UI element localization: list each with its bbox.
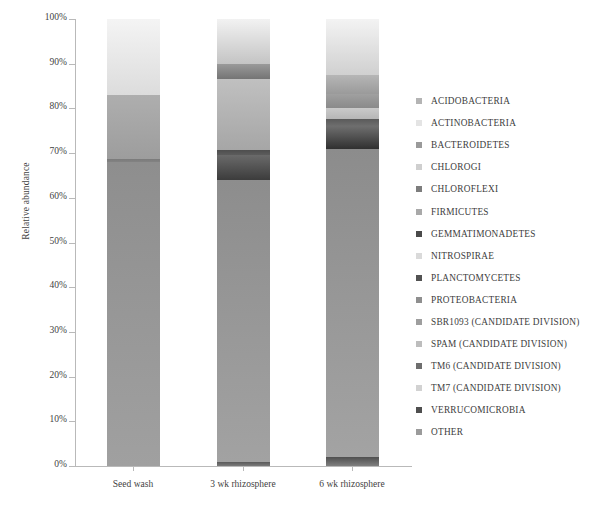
legend-swatch-icon (416, 385, 422, 391)
legend-label: VERRUCOMICROBIA (431, 405, 526, 415)
legend-swatch-icon (416, 253, 422, 259)
y-tick-mark (69, 108, 75, 109)
legend-label: SPAM (CANDIDATE DIVISION) (431, 339, 567, 349)
legend-label: ACIDOBACTERIA (431, 96, 510, 106)
bar-segment (217, 79, 270, 150)
legend-swatch-icon (416, 363, 422, 369)
legend-label: FIRMICUTES (431, 207, 489, 217)
x-tick-mark (133, 466, 134, 471)
legend-label: ACTINOBACTERIA (431, 118, 516, 128)
legend-item: SBR1093 (CANDIDATE DIVISION) (414, 311, 606, 333)
legend-item: PROTEOBACTERIA (414, 289, 606, 311)
legend-item: SPAM (CANDIDATE DIVISION) (414, 333, 606, 355)
legend-swatch-icon (416, 142, 422, 148)
bar-segment (326, 19, 379, 75)
y-tick-label: 50% (23, 236, 67, 246)
y-tick-mark (69, 243, 75, 244)
legend-item: PLANCTOMYCETES (414, 267, 606, 289)
bar-segment (326, 119, 379, 126)
legend-label: OTHER (431, 427, 463, 437)
legend-item: TM6 (CANDIDATE DIVISION) (414, 355, 606, 377)
legend-swatch-icon (416, 297, 422, 303)
x-tick-mark (243, 466, 244, 471)
bar-segment (326, 149, 379, 457)
y-tick-label: 20% (23, 370, 67, 380)
y-axis-line (75, 19, 76, 467)
stacked-bar (217, 19, 270, 466)
y-tick-label: 40% (23, 280, 67, 290)
legend-item: OTHER (414, 421, 606, 443)
bar-segment (107, 19, 160, 95)
y-tick-mark (69, 287, 75, 288)
legend-label: GEMMATIMONADETES (431, 229, 536, 239)
bar-segment (107, 95, 160, 159)
y-tick-label: 80% (23, 101, 67, 111)
y-tick-label: 60% (23, 191, 67, 201)
legend-swatch-icon (416, 429, 422, 435)
y-tick-mark (69, 198, 75, 199)
legend-item: BACTEROIDETES (414, 134, 606, 156)
bar-segment (217, 19, 270, 64)
y-tick-mark (69, 332, 75, 333)
stacked-bar (326, 19, 379, 466)
legend-label: TM6 (CANDIDATE DIVISION) (431, 361, 561, 371)
plot-area: 0%10%20%30%40%50%60%70%80%90%100% Seed w… (75, 19, 412, 466)
legend-item: ACTINOBACTERIA (414, 112, 606, 134)
legend-label: TM7 (CANDIDATE DIVISION) (431, 383, 561, 393)
legend-swatch-icon (416, 164, 422, 170)
y-tick-mark (69, 421, 75, 422)
y-tick-mark (69, 377, 75, 378)
y-tick-mark (69, 153, 75, 154)
legend-label: PROTEOBACTERIA (431, 295, 517, 305)
y-tick-label: 30% (23, 325, 67, 335)
legend-item: CHLOROGI (414, 156, 606, 178)
legend-item: GEMMATIMONADETES (414, 223, 606, 245)
legend-item: ACIDOBACTERIA (414, 90, 606, 112)
y-tick-label: 10% (23, 414, 67, 424)
x-axis-category-label: 6 wk rhizosphere (277, 479, 427, 489)
legend-swatch-icon (416, 341, 422, 347)
y-tick-mark (69, 64, 75, 65)
bar-segment (326, 126, 379, 148)
legend-label: CHLOROFLEXI (431, 184, 498, 194)
bar-segment (217, 155, 270, 180)
legend-item: CHLOROFLEXI (414, 178, 606, 200)
stacked-bar (107, 19, 160, 466)
legend-swatch-icon (416, 186, 422, 192)
bar-segment (217, 150, 270, 155)
x-tick-mark (352, 466, 353, 471)
y-tick-label: 70% (23, 146, 67, 156)
y-tick-mark (69, 19, 75, 20)
bar-segment (326, 94, 379, 108)
legend-item: VERRUCOMICROBIA (414, 399, 606, 421)
legend-swatch-icon (416, 407, 422, 413)
legend-swatch-icon (416, 231, 422, 237)
legend-label: BACTEROIDETES (431, 140, 510, 150)
y-tick-label: 90% (23, 57, 67, 67)
legend-swatch-icon (416, 209, 422, 215)
bar-segment (217, 180, 270, 462)
bar-segment (326, 75, 379, 94)
legend-label: NITROSPIRAE (431, 251, 494, 261)
y-tick-label: 100% (23, 12, 67, 22)
legend-swatch-icon (416, 275, 422, 281)
y-tick-mark (69, 466, 75, 467)
legend-label: PLANCTOMYCETES (431, 273, 521, 283)
legend-label: SBR1093 (CANDIDATE DIVISION) (431, 317, 580, 327)
bar-segment (326, 457, 379, 466)
legend-item: TM7 (CANDIDATE DIVISION) (414, 377, 606, 399)
bar-segment (326, 108, 379, 119)
chart-figure: Relative abundance 0%10%20%30%40%50%60%7… (0, 0, 608, 511)
y-tick-label: 0% (23, 459, 67, 469)
legend-item: FIRMICUTES (414, 200, 606, 222)
legend-swatch-icon (416, 319, 422, 325)
bar-segment (217, 64, 270, 80)
bar-segment (107, 162, 160, 466)
legend-swatch-icon (416, 120, 422, 126)
legend-swatch-icon (416, 98, 422, 104)
legend-item: NITROSPIRAE (414, 245, 606, 267)
legend-label: CHLOROGI (431, 162, 481, 172)
bar-segment (107, 159, 160, 162)
legend: ACIDOBACTERIAACTINOBACTERIABACTEROIDETES… (414, 90, 606, 444)
